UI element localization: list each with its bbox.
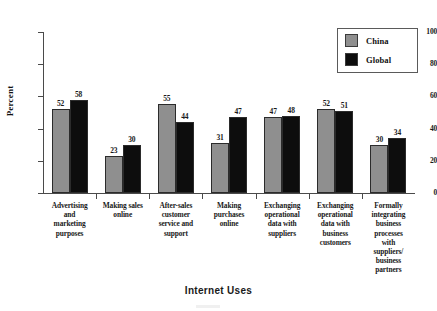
x-axis-category-label: Making salesonline [97,201,148,219]
x-axis-category-label: Makingpurchasesonline [203,201,254,229]
x-axis-category-label: Exchangingoperationaldata withbusinesscu… [310,201,361,247]
bar-china-3 [211,143,229,193]
x-axis-separator [362,194,363,199]
bar-global-4 [282,116,300,193]
legend-item-global: Global [345,53,391,66]
legend-label-global: Global [366,55,391,65]
x-axis-separator [256,194,257,199]
x-axis-category-label: Formallyintegratingbusinessprocesseswith… [363,201,414,275]
bar-value-label: 30 [118,136,146,144]
x-axis-title: Internet Uses [0,285,437,296]
bar-china-0 [52,109,70,193]
x-axis-separator [309,194,310,199]
bar-china-4 [264,117,282,193]
bar-global-5 [335,111,353,193]
bar-global-6 [388,138,406,193]
bar-global-2 [176,122,194,193]
legend-swatch-global-icon [345,53,358,66]
bar-value-label: 44 [171,113,199,121]
chart-figure: 020406080100 Percent 5258233055443147474… [0,0,437,311]
x-axis-category-label: After-salescustomerservice andsupport [150,201,201,238]
bar-global-3 [229,117,247,193]
bar-value-label: 58 [65,91,93,99]
x-axis-separator [96,194,97,199]
bar-global-1 [123,145,141,193]
bar-value-label: 48 [277,107,305,115]
x-axis-separator [149,194,150,199]
bar-china-1 [105,156,123,193]
x-axis-separator [202,194,203,199]
bar-value-label: 34 [383,129,411,137]
legend: China Global [337,28,418,73]
bar-china-6 [370,145,388,193]
legend-label-china: China [366,36,389,46]
bar-global-0 [70,100,88,193]
bar-value-label: 55 [153,95,181,103]
bar-value-label: 47 [224,108,252,116]
bar-value-label: 51 [330,102,358,110]
x-axis-category-label: Exchangingoperationaldata withsuppliers [257,201,308,238]
bar-china-5 [317,109,335,193]
x-axis-category-label: Advertisingandmarketingpurposes [44,201,95,238]
legend-swatch-china-icon [345,34,358,47]
scan-artifact [196,305,220,308]
legend-item-china: China [345,34,389,47]
x-axis-line [43,193,415,194]
y-axis-title: Percent [5,69,15,133]
